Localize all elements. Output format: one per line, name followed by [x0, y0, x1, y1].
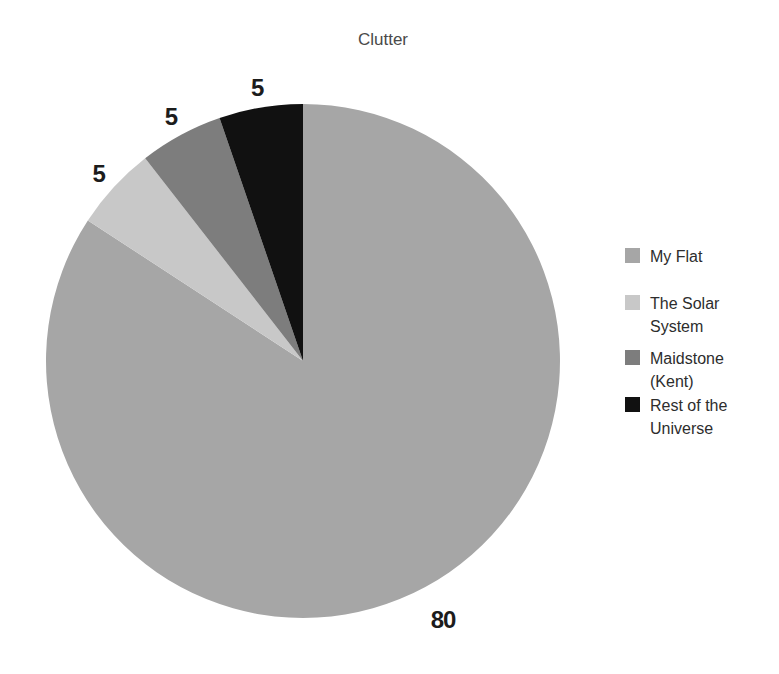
legend-label-my-flat: My Flat	[650, 245, 760, 268]
data-label-rest-of-the-universe: 5	[251, 74, 264, 101]
legend-swatch-rest-of-the-universe	[625, 397, 640, 412]
data-label-the-solar-system: 5	[93, 160, 106, 187]
chart-legend: My FlatThe Solar SystemMaidstone (Kent)R…	[625, 0, 779, 674]
legend-swatch-maidstone-kent	[625, 350, 640, 365]
data-label-my-flat: 80	[431, 606, 456, 633]
data-label-maidstone-kent: 5	[165, 103, 178, 130]
legend-swatch-the-solar-system	[625, 295, 640, 310]
legend-item-my-flat: My Flat	[625, 245, 760, 268]
pie-chart-figure: Clutter 80555 My FlatThe Solar SystemMai…	[0, 0, 779, 674]
legend-item-rest-of-the-universe: Rest of the Universe	[625, 394, 760, 440]
legend-label-rest-of-the-universe: Rest of the Universe	[650, 394, 760, 440]
legend-item-maidstone-kent: Maidstone (Kent)	[625, 347, 760, 393]
legend-label-maidstone-kent: Maidstone (Kent)	[650, 347, 760, 393]
legend-swatch-my-flat	[625, 248, 640, 263]
legend-item-the-solar-system: The Solar System	[625, 292, 760, 338]
legend-label-the-solar-system: The Solar System	[650, 292, 760, 338]
